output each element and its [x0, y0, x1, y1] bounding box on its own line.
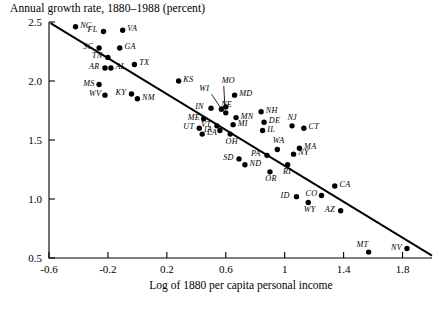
point-label-va: VA [127, 25, 137, 33]
point-label-fl: FL [88, 26, 98, 34]
data-point-ks [176, 78, 181, 83]
point-label-pa: PA [251, 150, 260, 158]
data-point-ca [332, 183, 337, 188]
point-label-ne: NE [221, 101, 232, 109]
data-point-de [261, 120, 266, 125]
x-tick-label: -0.2 [99, 263, 116, 275]
point-label-tx: TX [139, 59, 149, 67]
point-label-la: LA [207, 129, 217, 137]
data-point-pa [264, 153, 269, 158]
data-point-tx [132, 62, 137, 67]
data-point-nc [73, 24, 78, 29]
data-point-mt [366, 249, 371, 254]
data-point-wv [102, 92, 107, 97]
point-label-ut: UT [183, 123, 194, 131]
x-tick-label: 1 [282, 263, 288, 275]
point-label-nj: NJ [287, 114, 297, 122]
data-point-wa [275, 147, 280, 152]
plot-area: NCFLVASCGATNARALTXMSKSWVKYNMMOWIMDINNENH… [0, 0, 446, 315]
leader-line-wi [212, 94, 221, 107]
point-label-oh: OH [226, 138, 238, 146]
data-point-va [120, 28, 125, 33]
x-tick-label: -0.6 [40, 263, 57, 275]
point-label-id: ID [281, 192, 290, 200]
point-label-az: AZ [325, 206, 335, 214]
x-tick-label: 0.6 [219, 263, 233, 275]
point-label-mt: MT [356, 241, 368, 249]
data-point-ne [223, 110, 228, 115]
point-label-il: IL [267, 126, 275, 134]
data-point-md [232, 92, 237, 97]
point-label-wa: WA [273, 137, 285, 145]
data-point-al [108, 65, 113, 70]
point-label-co: CO [306, 190, 318, 198]
data-point-ia [217, 128, 222, 133]
data-point-nm [135, 96, 140, 101]
point-label-in: IN [195, 103, 204, 111]
point-label-md: MD [239, 90, 252, 98]
data-point-id [294, 194, 299, 199]
point-label-nd: ND [250, 160, 262, 168]
data-point-az [338, 208, 343, 213]
point-label-tn: TN [92, 52, 102, 60]
y-tick-label: 1.5 [8, 134, 42, 146]
point-label-nm: NM [142, 94, 155, 102]
data-point-nv [404, 246, 409, 251]
point-label-wy: WY [304, 206, 316, 214]
point-label-nv: NV [391, 244, 402, 252]
point-label-wi: WI [199, 85, 209, 93]
x-tick-label: 1.4 [337, 263, 351, 275]
point-label-ks: KS [183, 76, 193, 84]
y-tick-label: 1.0 [8, 193, 42, 205]
point-label-or: OR [265, 175, 276, 183]
y-tick-label: 2.0 [8, 75, 42, 87]
x-axis-title: Log of 1880 per capita personal income [0, 279, 446, 291]
point-label-ct: CT [309, 123, 319, 131]
point-label-ar: AR [89, 63, 99, 71]
point-label-ri: RI [283, 168, 291, 176]
data-point-sc [96, 45, 101, 50]
point-label-al: AL [116, 63, 126, 71]
data-point-mi [230, 122, 235, 127]
data-point-nh [258, 109, 263, 114]
data-point-tn [105, 55, 110, 60]
point-label-ca: CA [339, 181, 350, 189]
y-tick-label: 2.5 [8, 16, 42, 28]
data-point-ky [129, 91, 134, 96]
point-label-ny: NY [298, 149, 308, 157]
point-label-me: ME [188, 114, 200, 122]
x-tick-label: 0.2 [160, 263, 174, 275]
data-point-sd [236, 156, 241, 161]
point-label-mo: MO [222, 77, 235, 85]
data-point-oh [227, 131, 232, 136]
point-label-sc: SC [83, 43, 93, 51]
y-tick-label: 0.5 [8, 252, 42, 264]
point-label-nh: NH [266, 107, 278, 115]
data-point-nj [289, 123, 294, 128]
data-point-ga [117, 45, 122, 50]
data-point-in [208, 105, 213, 110]
point-label-sd: SD [223, 154, 233, 162]
data-point-nd [242, 162, 247, 167]
data-point-ar [102, 65, 107, 70]
x-tick-label: 1.8 [396, 263, 410, 275]
point-label-wv: WV [89, 90, 101, 98]
data-point-ct [301, 126, 306, 131]
point-label-ms: MS [83, 80, 94, 88]
figure-scatter-growth-vs-income: Annual growth rate, 1880–1988 (percent) … [0, 0, 446, 315]
data-point-ms [96, 82, 101, 87]
point-label-ky: KY [116, 89, 126, 97]
data-point-ny [291, 151, 296, 156]
data-point-co [319, 193, 324, 198]
data-point-fl [101, 29, 106, 34]
x-axis-title-text: Log of 1880 per capita personal income [113, 279, 332, 291]
data-point-il [260, 128, 265, 133]
point-label-ga: GA [124, 43, 135, 51]
point-label-mi: MI [238, 120, 248, 128]
